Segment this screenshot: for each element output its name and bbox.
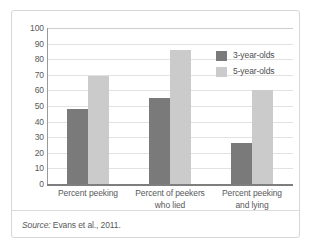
bar-group-1 <box>67 28 109 184</box>
bar-5-year-olds-3 <box>252 90 273 184</box>
y-axis-tick-90: 90 <box>18 39 44 48</box>
source-citation: Evans et al., 2011. <box>53 220 121 230</box>
y-axis-tick-20: 20 <box>18 149 44 158</box>
bar-3-year-olds-3 <box>231 143 252 184</box>
legend-label: 3-year-olds <box>233 51 274 60</box>
x-label-3: Percent peekingand lying <box>213 188 291 211</box>
y-axis-tick-30: 30 <box>18 133 44 142</box>
x-axis-category-labels: Percent peekingPercent of peekerswho lie… <box>47 188 293 211</box>
y-axis-tick-labels: 0102030405060708090100 <box>18 28 44 184</box>
x-axis-line <box>47 184 293 186</box>
y-axis-tick-50: 50 <box>18 102 44 111</box>
bar-group-2 <box>149 28 191 184</box>
legend-item-3-year-olds: 3-year-olds <box>216 49 274 62</box>
source-divider <box>12 210 299 211</box>
y-axis-tick-100: 100 <box>18 24 44 33</box>
y-axis-tick-60: 60 <box>18 86 44 95</box>
legend-swatch-icon <box>216 67 227 77</box>
x-label-2: Percent of peekerswho lied <box>131 188 209 211</box>
legend-item-5-year-olds: 5-year-olds <box>216 65 274 78</box>
legend-label: 5-year-olds <box>233 67 274 76</box>
source-label: Source: <box>22 220 51 230</box>
x-label-line: Percent peeking <box>49 188 127 200</box>
bar-5-year-olds-2 <box>170 50 191 184</box>
bar-5-year-olds-1 <box>88 76 109 184</box>
chart-plot-area: 0102030405060708090100 Percent peekingPe… <box>12 11 301 207</box>
figure-container: 0102030405060708090100 Percent peekingPe… <box>11 10 300 238</box>
x-label-line: Percent peeking <box>213 188 291 200</box>
bar-3-year-olds-2 <box>149 98 170 184</box>
legend-swatch-icon <box>216 51 227 61</box>
bar-3-year-olds-1 <box>67 109 88 184</box>
y-axis-tick-80: 80 <box>18 55 44 64</box>
source-note: Source: Evans et al., 2011. <box>22 220 121 230</box>
x-label-line: Percent of peekers <box>131 188 209 200</box>
y-axis-tick-0: 0 <box>18 180 44 189</box>
y-axis-tick-70: 70 <box>18 71 44 80</box>
y-axis-tick-40: 40 <box>18 117 44 126</box>
y-axis-tick-10: 10 <box>18 164 44 173</box>
chart-legend: 3-year-olds5-year-olds <box>216 49 274 81</box>
x-label-1: Percent peeking <box>49 188 127 211</box>
